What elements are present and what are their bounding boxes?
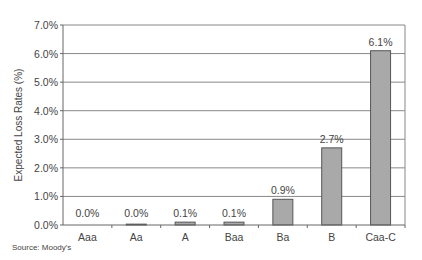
y-tick-label: 6.0% [34, 48, 58, 60]
x-tick-label: Caa-C [365, 231, 396, 243]
source-note: Source: Moody's [12, 243, 71, 252]
y-tick-label: 5.0% [34, 76, 58, 88]
x-tick-label: B [328, 231, 335, 243]
y-tick-label: 2.0% [34, 162, 58, 174]
bar-ba [273, 199, 293, 225]
x-axis-ticks: AaaAaABaaBaBCaa-C [78, 225, 405, 243]
bar-b [322, 148, 342, 225]
y-axis-label: Expected Loss Rates (%) [13, 69, 24, 182]
bar-chart: 0.0%1.0%2.0%3.0%4.0%5.0%6.0%7.0% 0.0%0.0… [0, 0, 422, 245]
data-label: 2.7% [320, 133, 344, 145]
data-label: 0.0% [124, 207, 148, 219]
x-tick-label: Aaa [78, 231, 97, 243]
y-tick-label: 0.0% [34, 219, 58, 231]
y-tick-label: 4.0% [34, 105, 58, 117]
x-tick-label: Ba [276, 231, 289, 243]
data-label: 0.1% [173, 207, 197, 219]
data-label: 0.0% [75, 207, 99, 219]
gridlines [63, 25, 405, 225]
y-tick-label: 1.0% [34, 190, 58, 202]
data-label: 0.9% [271, 184, 295, 196]
data-label: 6.1% [369, 36, 393, 48]
y-axis-ticks: 0.0%1.0%2.0%3.0%4.0%5.0%6.0%7.0% [34, 19, 63, 231]
y-tick-label: 7.0% [34, 19, 58, 31]
y-tick-label: 3.0% [34, 133, 58, 145]
data-label: 0.1% [222, 207, 246, 219]
bar-caa-c [371, 51, 391, 225]
x-tick-label: A [182, 231, 189, 243]
x-tick-label: Aa [130, 231, 143, 243]
x-tick-label: Baa [225, 231, 244, 243]
